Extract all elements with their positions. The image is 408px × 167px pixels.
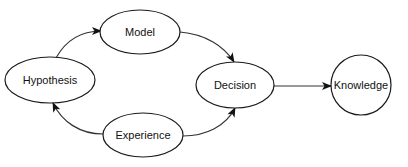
edge-model-to-decision (180, 32, 234, 62)
edge-experience-to-decision (183, 108, 235, 136)
node-knowledge: Knowledge (331, 55, 391, 115)
node-label: Decision (214, 79, 256, 91)
flow-diagram: Hypothesis Model Experience Decision Kno… (0, 0, 408, 167)
node-model: Model (100, 10, 180, 54)
node-label: Knowledge (334, 79, 388, 91)
node-label: Model (125, 26, 155, 38)
node-decision: Decision (196, 62, 274, 108)
edge-experience-to-hypothesis (53, 103, 103, 134)
edge-hypothesis-to-model (56, 31, 101, 58)
node-experience: Experience (103, 113, 183, 157)
node-label: Experience (115, 129, 170, 141)
node-label: Hypothesis (23, 74, 78, 86)
node-hypothesis: Hypothesis (5, 57, 95, 103)
